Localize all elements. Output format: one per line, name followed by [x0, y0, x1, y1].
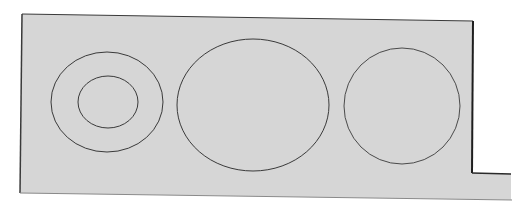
- plate-notch-edge: [472, 173, 511, 174]
- plate-diagram: [0, 0, 522, 209]
- plate-right-edge: [472, 21, 473, 173]
- diagram-canvas: [0, 0, 522, 209]
- plate-shape: [20, 14, 511, 200]
